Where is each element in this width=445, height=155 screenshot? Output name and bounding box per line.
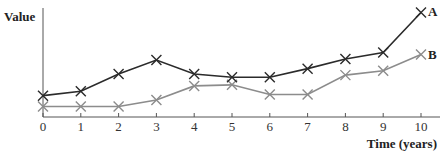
x-ticks: 012345678910 — [40, 113, 428, 134]
series-line — [43, 12, 421, 95]
x-marker-icon — [416, 50, 426, 60]
series-line — [43, 55, 421, 107]
x-marker-icon — [114, 69, 124, 79]
x-tick-label: 2 — [115, 119, 122, 134]
series-b: B — [38, 47, 437, 112]
x-tick-label: 4 — [191, 119, 198, 134]
line-chart: 012345678910 Value Time (years) BA — [0, 0, 445, 155]
series-label-a: A — [428, 4, 438, 19]
series-layer: BA — [38, 4, 438, 111]
x-marker-icon — [151, 55, 161, 65]
x-tick-label: 5 — [229, 119, 236, 134]
y-axis-title: Value — [4, 9, 36, 24]
x-axis-title: Time (years) — [367, 136, 437, 151]
x-tick-label: 7 — [304, 119, 311, 134]
x-marker-icon — [416, 7, 426, 17]
x-tick-label: 1 — [78, 119, 85, 134]
x-tick-label: 10 — [415, 119, 428, 134]
x-tick-label: 9 — [380, 119, 387, 134]
x-tick-label: 8 — [342, 119, 349, 134]
x-tick-label: 0 — [40, 119, 47, 134]
series-label-b: B — [428, 47, 437, 62]
x-tick-label: 6 — [267, 119, 274, 134]
x-tick-label: 3 — [153, 119, 160, 134]
